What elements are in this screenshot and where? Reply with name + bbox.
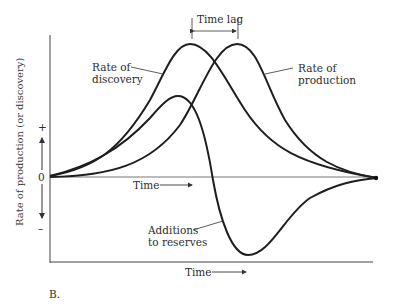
curve-additions-to-reserves: [50, 96, 377, 255]
discovery-label-line1: Rate of: [92, 61, 130, 73]
y-tick-plus: +: [38, 121, 47, 133]
production-label-line1: Rate of: [298, 62, 336, 74]
additions-label-line2: to reserves: [148, 236, 207, 248]
leader-production: [265, 68, 293, 74]
convergence-point: [374, 176, 378, 180]
production-label-line2: production: [298, 74, 356, 86]
time-lag-label: Time lag: [197, 13, 243, 25]
additions-label-line1: Additions: [148, 224, 198, 236]
diagram-canvas: [0, 0, 393, 306]
y-tick-minus: –: [38, 222, 43, 234]
y-axis-label: Rate of production (or discovery): [14, 58, 25, 226]
y-tick-zero: 0: [38, 171, 45, 183]
discovery-label-line2: discovery: [92, 73, 143, 85]
panel-label: B.: [49, 288, 60, 300]
inner-time-label: Time: [133, 179, 160, 191]
bottom-time-label: Time: [185, 266, 212, 278]
